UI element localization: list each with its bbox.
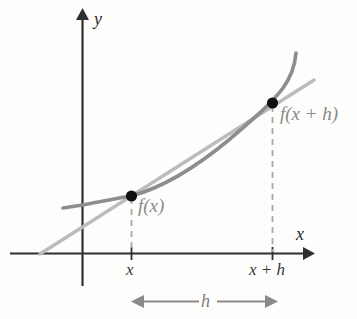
label-h-interval: h <box>201 292 210 310</box>
x-tick-label-left: x <box>126 261 134 278</box>
y-axis <box>76 8 89 286</box>
difference-quotient-figure: y x x x + h f(x) f(x + h) h <box>0 0 357 319</box>
y-axis-label: y <box>94 10 102 28</box>
y-axis-arrowhead-icon <box>76 8 89 20</box>
x-axis <box>10 247 315 260</box>
point-f-of-x <box>126 190 137 201</box>
label-f-of-x: f(x) <box>138 196 164 215</box>
h-arrow-left-head-icon <box>131 295 144 308</box>
x-tick-label-right: x + h <box>249 261 285 278</box>
x-axis-label: x <box>296 225 304 243</box>
x-axis-arrowhead-icon <box>303 247 315 260</box>
label-f-of-x-plus-h: f(x + h) <box>280 104 338 123</box>
point-f-of-x-plus-h <box>267 97 278 108</box>
function-curve <box>63 53 296 208</box>
figure-canvas <box>0 0 357 319</box>
h-arrow-right-head-icon <box>265 295 278 308</box>
